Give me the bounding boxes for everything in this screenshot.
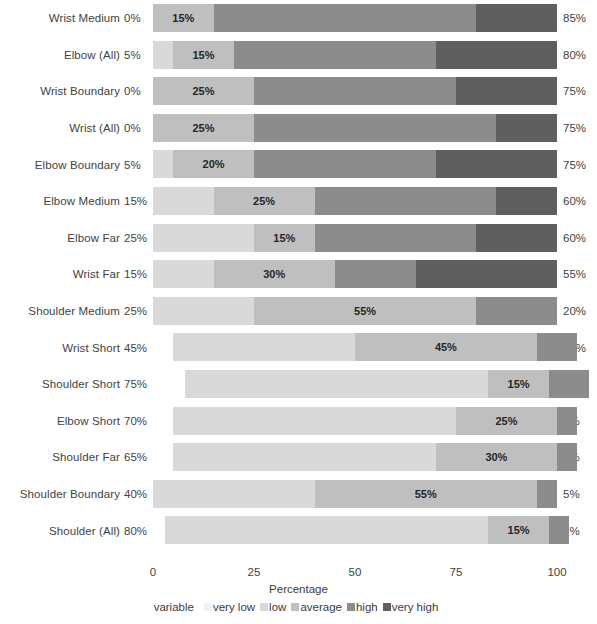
category-label: Elbow Medium — [43, 195, 120, 207]
bar-band: 25% — [153, 407, 557, 435]
chart-row: Shoulder (All)80%5%15% — [0, 512, 597, 549]
bar-band: 25% — [153, 77, 557, 105]
bar-segment-very-high — [436, 150, 557, 178]
bar-segment-very-high — [476, 224, 557, 252]
category-label: Elbow Far — [67, 232, 120, 244]
bar-band: 20% — [153, 150, 557, 178]
x-axis-tick: 75 — [450, 566, 463, 578]
bar-segment-low — [173, 333, 355, 361]
category-label: Wrist (All) — [69, 122, 120, 134]
bar-segment-average — [315, 480, 537, 508]
legend-label: average — [300, 601, 342, 613]
bar-segment-high — [214, 4, 477, 32]
bar-segment-high — [557, 443, 577, 471]
bar-segment-very-high — [436, 41, 557, 69]
bar-segment-average — [173, 41, 234, 69]
bar-segment-very-high — [496, 114, 557, 142]
bar-band: 30% — [153, 260, 557, 288]
bar-segment-low — [185, 370, 488, 398]
left-percentage-label: 15% — [124, 268, 147, 280]
left-percentage-label: 5% — [124, 49, 141, 61]
bar-segment-very-high — [476, 4, 557, 32]
chart-row: Wrist Far15%55%30% — [0, 256, 597, 293]
left-percentage-label: 75% — [124, 378, 147, 390]
right-percentage-label: 75% — [563, 122, 586, 134]
chart-row: Wrist (All)0%75%25% — [0, 110, 597, 147]
left-percentage-label: 70% — [124, 415, 147, 427]
category-label: Shoulder Far — [52, 451, 120, 463]
bar-segment-high — [476, 297, 557, 325]
legend-swatch-icon — [383, 603, 391, 611]
chart-row: Elbow (All)5%80%15% — [0, 37, 597, 74]
right-percentage-label: 75% — [563, 85, 586, 97]
category-label: Wrist Short — [62, 342, 120, 354]
bar-band: 55% — [153, 297, 557, 325]
right-percentage-label: 60% — [563, 232, 586, 244]
category-label: Wrist Boundary — [40, 85, 120, 97]
legend-item[interactable]: low — [260, 601, 291, 613]
legend-label: very high — [392, 601, 439, 613]
bar-segment-low — [165, 516, 488, 544]
bar-segment-average — [153, 4, 214, 32]
bar-segment-high — [254, 150, 436, 178]
chart-row: Shoulder Boundary40%5%55% — [0, 476, 597, 513]
legend-item[interactable]: high — [347, 601, 383, 613]
bar-segment-high — [254, 77, 456, 105]
bar-segment-average — [254, 224, 315, 252]
bar-band: 15% — [153, 4, 557, 32]
left-percentage-label: 0% — [124, 12, 141, 24]
bar-segment-low — [153, 41, 173, 69]
bar-segment-high — [549, 370, 589, 398]
chart-row: Elbow Medium15%60%25% — [0, 183, 597, 220]
bar-band: 15% — [153, 41, 557, 69]
legend-item[interactable]: very high — [383, 601, 444, 613]
left-percentage-label: 15% — [124, 195, 147, 207]
bar-segment-high — [537, 333, 577, 361]
bar-segment-very-high — [456, 77, 557, 105]
legend-item[interactable]: average — [291, 601, 347, 613]
bar-segment-low — [173, 407, 456, 435]
chart-row: Elbow Far25%60%15% — [0, 220, 597, 257]
left-percentage-label: 0% — [124, 122, 141, 134]
category-label: Elbow (All) — [64, 49, 120, 61]
bar-segment-average — [254, 297, 476, 325]
legend-label: very low — [213, 601, 255, 613]
bar-segment-average — [173, 150, 254, 178]
bar-segment-high — [335, 260, 416, 288]
x-axis-title: Percentage — [0, 583, 597, 595]
chart-row: Wrist Medium0%85%15% — [0, 0, 597, 37]
chart-row: Elbow Boundary5%75%20% — [0, 146, 597, 183]
right-percentage-label: 20% — [563, 305, 586, 317]
chart-row: Elbow Short70%5%25% — [0, 403, 597, 440]
bar-segment-high — [549, 516, 569, 544]
bar-band: 30% — [153, 443, 557, 471]
legend-title: variable — [154, 601, 194, 613]
bar-segment-very-high — [496, 187, 557, 215]
category-label: Shoulder Boundary — [20, 488, 120, 500]
legend-item[interactable]: very low — [204, 601, 260, 613]
bar-band: 45% — [153, 333, 557, 361]
legend-swatch-icon — [260, 603, 268, 611]
bar-segment-average — [153, 77, 254, 105]
category-label: Wrist Far — [73, 268, 120, 280]
category-label: Elbow Boundary — [35, 159, 120, 171]
bar-band: 55% — [153, 480, 557, 508]
left-percentage-label: 5% — [124, 159, 141, 171]
right-percentage-label: 60% — [563, 195, 586, 207]
bar-segment-average — [214, 260, 335, 288]
bar-segment-low — [153, 150, 173, 178]
legend-label: low — [269, 601, 286, 613]
x-axis-tick: 25 — [248, 566, 261, 578]
category-label: Elbow Short — [57, 415, 120, 427]
bar-segment-low — [153, 224, 254, 252]
x-axis-tick: 0 — [150, 566, 156, 578]
bar-segment-high — [557, 407, 577, 435]
right-percentage-label: 5% — [563, 488, 580, 500]
chart-row: Wrist Boundary0%75%25% — [0, 73, 597, 110]
legend-swatch-icon — [291, 603, 299, 611]
bar-segment-average — [488, 516, 549, 544]
chart-row: Shoulder Short75%10%15% — [0, 366, 597, 403]
bar-segment-low — [153, 297, 254, 325]
category-label: Shoulder Short — [42, 378, 120, 390]
right-percentage-label: 80% — [563, 49, 586, 61]
